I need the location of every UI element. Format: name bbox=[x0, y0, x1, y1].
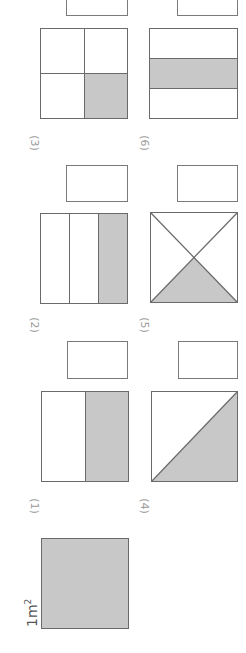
shaded-region bbox=[86, 392, 128, 481]
problem-number-3: (3) bbox=[28, 131, 40, 155]
figure-6 bbox=[149, 28, 238, 119]
answer-box-4[interactable] bbox=[178, 341, 238, 379]
divider-line bbox=[150, 58, 237, 59]
figure-2 bbox=[40, 213, 128, 304]
figure-4 bbox=[151, 391, 238, 482]
figure-3 bbox=[40, 28, 128, 119]
answer-box-2[interactable] bbox=[66, 165, 128, 202]
divider-line bbox=[98, 214, 99, 303]
diagonals-svg bbox=[151, 213, 237, 302]
figure-5 bbox=[150, 212, 238, 303]
answer-box-6[interactable] bbox=[177, 0, 238, 16]
shaded-region bbox=[85, 74, 127, 118]
figure-1 bbox=[41, 391, 129, 482]
unit-label: 1m2 bbox=[21, 596, 39, 630]
divider-line bbox=[41, 73, 127, 74]
problem-number-5: (5) bbox=[138, 313, 150, 337]
reference-square bbox=[41, 538, 129, 629]
shaded-region bbox=[99, 214, 127, 303]
problem-number-2: (2) bbox=[28, 313, 40, 337]
answer-box-3[interactable] bbox=[66, 0, 128, 16]
shaded-region bbox=[150, 59, 237, 89]
problem-number-6: (6) bbox=[138, 131, 150, 155]
divider-line bbox=[69, 214, 70, 303]
unit-text: 1m bbox=[24, 604, 40, 627]
diagonal-svg bbox=[152, 392, 237, 481]
unit-exponent: 2 bbox=[23, 599, 33, 605]
problem-number-4: (4) bbox=[138, 494, 150, 518]
problem-number-1: (1) bbox=[28, 494, 40, 518]
answer-box-5[interactable] bbox=[177, 165, 238, 202]
answer-box-1[interactable] bbox=[67, 341, 128, 379]
divider-line bbox=[85, 392, 86, 481]
divider-line bbox=[150, 88, 237, 89]
